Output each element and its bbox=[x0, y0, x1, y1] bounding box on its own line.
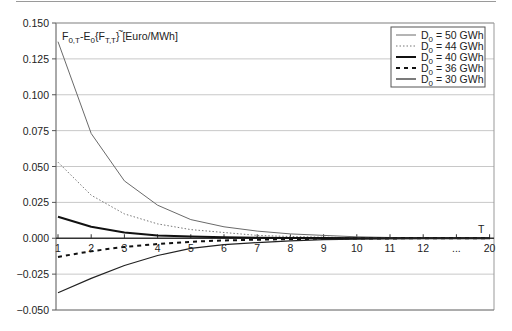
series-line bbox=[58, 162, 490, 238]
x-tick-label: 9 bbox=[321, 242, 327, 254]
ylabel-part: -E bbox=[80, 30, 91, 42]
x-tick-label: 3 bbox=[121, 242, 127, 254]
y-tick-label: 0.150 bbox=[23, 17, 49, 29]
series-line bbox=[58, 217, 490, 239]
x-tick-label: 11 bbox=[385, 242, 396, 254]
y-axis-ticks: 0.1500.1250.1000.0750.0500.0250.000−0.02… bbox=[17, 17, 56, 316]
legend: D0 = 50 GWhD0 = 44 GWhD0 = 40 GWhD0 = 36… bbox=[391, 27, 485, 88]
y-tick-label: 0.025 bbox=[23, 196, 49, 208]
ylabel-part: } [Euro/MWh] bbox=[116, 30, 178, 42]
y-tick-label: 0.100 bbox=[23, 89, 49, 101]
y-tick-label: −0.050 bbox=[17, 304, 50, 316]
x-tick-label: 1 bbox=[55, 242, 61, 254]
x-tick-label: 8 bbox=[287, 242, 293, 254]
ylabel-subscript: 0,T bbox=[68, 36, 80, 45]
x-tick-label: 12 bbox=[417, 242, 429, 254]
x-tick-label: 2 bbox=[88, 242, 94, 254]
y-tick-label: 0.000 bbox=[23, 232, 49, 244]
ylabel-subscript: T,T bbox=[105, 36, 116, 45]
y-tick-label: 0.125 bbox=[23, 53, 49, 65]
x-tick-label: 7 bbox=[254, 242, 260, 254]
x-tick-label: 20 bbox=[484, 242, 496, 254]
x-tick-label: 10 bbox=[351, 242, 363, 254]
y-tick-label: 0.050 bbox=[23, 161, 49, 173]
x-axis-label: T bbox=[478, 223, 485, 235]
y-tick-label: 0.075 bbox=[23, 125, 49, 137]
tilde-accent: ~ bbox=[118, 26, 123, 36]
x-tick-label: ... bbox=[452, 242, 461, 254]
line-chart: 0.1500.1250.1000.0750.0500.0250.000−0.02… bbox=[0, 0, 512, 331]
y-tick-label: −0.025 bbox=[17, 268, 50, 280]
